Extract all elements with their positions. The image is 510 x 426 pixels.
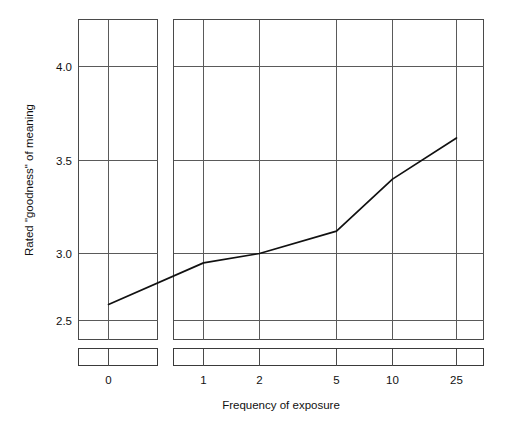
x-tick-label-0: 0 [105,374,111,386]
x-tick-label-2: 2 [256,374,262,386]
x-tick-label-10: 10 [386,374,399,386]
y-tick-label-3-5: 3.5 [56,155,72,167]
x-tick-label-25: 25 [450,374,463,386]
y-tick-label-3-0: 3.0 [56,248,72,260]
line-chart-svg: 4.0 3.5 3.0 2.5 Rated "goodness" of mean… [0,0,510,426]
y-tick-label-2-5: 2.5 [56,315,72,327]
x-tick-label-5: 5 [333,374,339,386]
x-axis-title: Frequency of exposure [222,399,340,411]
chart-background [0,0,510,426]
y-axis-title: Rated "goodness" of meaning [23,104,35,256]
chart-figure: 4.0 3.5 3.0 2.5 Rated "goodness" of mean… [0,0,510,426]
y-tick-label-4-0: 4.0 [56,61,72,73]
x-tick-label-1: 1 [200,374,206,386]
